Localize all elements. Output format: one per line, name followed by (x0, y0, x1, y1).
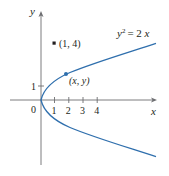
y-tick-label-1: 1 (31, 81, 36, 92)
point-fixed-label: (1, 4) (59, 38, 81, 50)
x-tick-label-3: 3 (80, 105, 85, 116)
equation-lhs-exp: 2 (122, 27, 126, 35)
x-tick-label-1: 1 (52, 105, 57, 116)
point-fixed-marker (53, 42, 56, 45)
point-on-curve-marker (64, 72, 68, 76)
parabola-diagram: y x 0 1 2 3 4 1 (1, 4) (x, y) y2= 2 x (0, 0, 169, 176)
origin-label: 0 (31, 104, 36, 115)
equation-rhs-var: x (144, 27, 150, 39)
x-axis-label: x (150, 105, 156, 117)
x-tick-label-2: 2 (66, 105, 71, 116)
point-on-curve-label: (x, y) (69, 75, 90, 87)
y-axis-label: y (29, 5, 35, 17)
equation-rhs: = 2 (127, 27, 141, 39)
x-tick-label-4: 4 (94, 105, 99, 116)
equation-label: y2= 2 x (116, 27, 150, 39)
